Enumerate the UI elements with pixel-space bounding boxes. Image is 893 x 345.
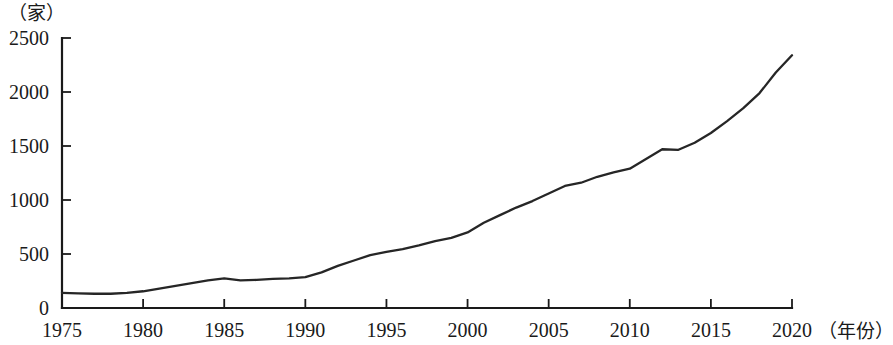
data-series-group: [62, 55, 792, 293]
axes-group: [62, 38, 792, 308]
y-tick-label: 2000: [9, 81, 49, 103]
y-axis-ticks: [62, 38, 71, 254]
x-tick-label: 1980: [123, 319, 163, 341]
x-axis-tick-labels: 1975198019851990199520002005201020152020: [42, 319, 812, 341]
y-tick-label: 2500: [9, 27, 49, 49]
y-axis-tick-labels: 05001000150020002500: [9, 27, 49, 319]
x-tick-label: 2020: [772, 319, 812, 341]
x-tick-label: 2015: [691, 319, 731, 341]
x-axis-unit-label: （年份）: [818, 321, 893, 342]
x-axis-ticks: [143, 299, 792, 308]
y-tick-label: 500: [19, 243, 49, 265]
x-tick-label: 1990: [285, 319, 325, 341]
x-tick-label: 2000: [448, 319, 488, 341]
x-tick-label: 2010: [610, 319, 650, 341]
data-series-line: [62, 55, 792, 293]
y-tick-label: 0: [39, 297, 49, 319]
x-tick-label: 1975: [42, 319, 82, 341]
y-tick-label: 1000: [9, 189, 49, 211]
x-tick-label: 1995: [366, 319, 406, 341]
chart-canvas: （家） （年份） 05001000150020002500 1975198019…: [0, 0, 893, 345]
y-tick-label: 1500: [9, 135, 49, 157]
y-axis-unit-label: （家）: [8, 3, 65, 24]
line-chart: （家） （年份） 05001000150020002500 1975198019…: [0, 0, 893, 345]
x-tick-label: 2005: [529, 319, 569, 341]
x-tick-label: 1985: [204, 319, 244, 341]
